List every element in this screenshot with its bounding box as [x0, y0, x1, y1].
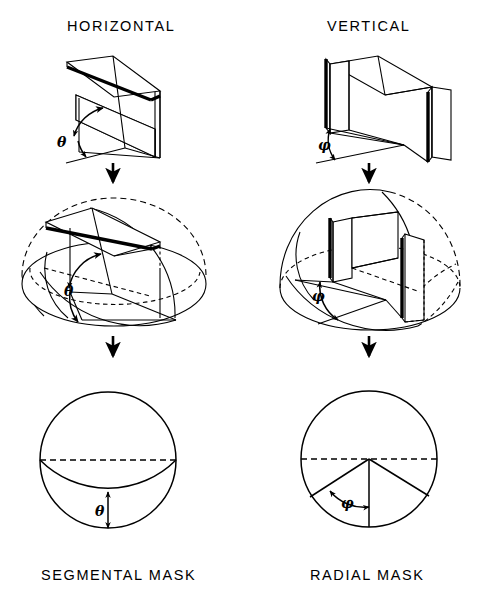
- radial-mask-label: RADIAL MASK: [310, 567, 425, 583]
- mask-geometry-figure: HORIZONTAL VERTICAL θ: [0, 0, 501, 608]
- hemisphere-right-left-plate-face: [333, 218, 352, 282]
- angle-symbol-phi-row2: φ: [312, 288, 325, 304]
- vertical-right-plate-face: [432, 87, 451, 160]
- vertical-left-plate-face: [330, 61, 349, 133]
- radial-mask-diagram: φ: [301, 391, 437, 527]
- angle-symbol-theta-row3: θ: [95, 503, 105, 519]
- hemisphere-right-floor-c: [386, 300, 402, 318]
- hemisphere-right-right-plate-face: [405, 234, 424, 322]
- horizontal-baffle-diagram: θ: [57, 56, 160, 163]
- vertical-baffle-diagram: φ: [316, 56, 451, 163]
- vertical-angle-ray-upper: [326, 128, 404, 145]
- hemisphere-horizontal-diagram: θ: [22, 198, 206, 326]
- horizontal-base-line-left: [66, 148, 125, 163]
- column-title-horizontal: HORIZONTAL: [67, 18, 175, 34]
- angle-symbol-theta-row1: θ: [57, 134, 67, 150]
- angle-symbol-theta-row2: θ: [64, 283, 74, 299]
- segmental-mask-diagram: θ: [40, 392, 176, 528]
- column-title-vertical: VERTICAL: [327, 18, 410, 34]
- angle-symbol-phi-row1: φ: [318, 137, 331, 153]
- angle-symbol-phi-row3: φ: [341, 495, 354, 511]
- hemisphere-right-floor-d: [333, 282, 386, 300]
- vertical-floor-edge-right: [404, 145, 428, 162]
- hemisphere-right-floor-b: [295, 280, 386, 300]
- hemisphere-vertical-diagram: φ: [280, 190, 460, 331]
- segmental-mask-label: SEGMENTAL MASK: [41, 567, 196, 583]
- figure-root: HORIZONTAL VERTICAL θ: [0, 0, 501, 608]
- horizontal-wall-face: [76, 95, 155, 157]
